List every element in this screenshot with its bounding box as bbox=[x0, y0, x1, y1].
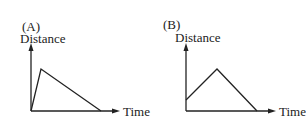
arrow-right-icon bbox=[268, 109, 276, 114]
graph-b: (B) Distance Time bbox=[0, 0, 306, 127]
arrow-up-icon bbox=[184, 43, 189, 51]
graph-b-line bbox=[186, 69, 257, 111]
graph-b-plot bbox=[0, 0, 306, 127]
